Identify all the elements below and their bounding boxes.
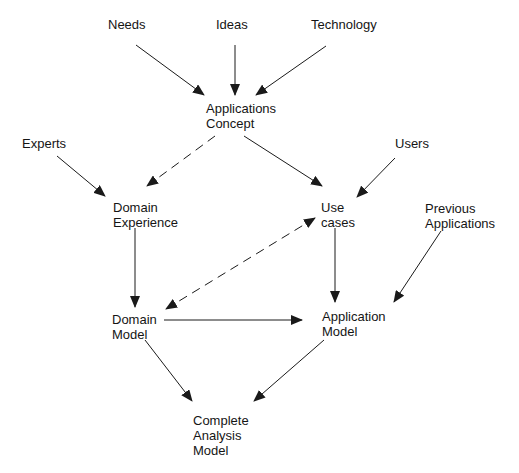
edge-concept-to-use-cases — [244, 136, 322, 186]
edge-technology-to-concept — [256, 46, 326, 95]
node-ideas: Ideas — [216, 17, 248, 32]
edge-experts-to-domain-experience — [57, 156, 105, 196]
diagram-edges — [0, 0, 519, 473]
edge-previous-to-application-model — [394, 231, 441, 302]
edge-domain-model-to-complete — [145, 340, 192, 401]
node-use-cases: Use cases — [321, 200, 355, 230]
edge-concept-to-domain-experience — [147, 136, 215, 186]
node-previous-applications: Previous Applications — [425, 201, 495, 231]
node-technology: Technology — [311, 17, 377, 32]
edge-needs-to-concept — [136, 45, 204, 95]
edge-users-to-use-cases — [357, 158, 395, 197]
node-experts: Experts — [22, 136, 66, 151]
node-application-model: Application Model — [322, 309, 386, 339]
node-domain-experience: Domain Experience — [113, 200, 178, 230]
node-complete-analysis-model: Complete Analysis Model — [193, 413, 249, 458]
node-users: Users — [395, 136, 429, 151]
node-needs: Needs — [108, 17, 146, 32]
node-domain-model: Domain Model — [112, 312, 157, 342]
edge-application-model-to-complete — [254, 340, 324, 401]
node-applications-concept: Applications Concept — [206, 101, 276, 131]
edge-use-cases-domain-model-dashed — [166, 218, 315, 309]
